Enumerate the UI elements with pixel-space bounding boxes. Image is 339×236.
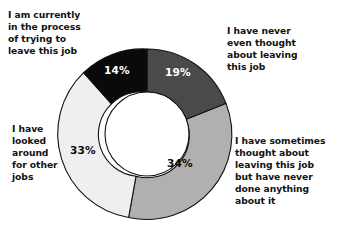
donut-chart-figure: I am currently in the process of trying …: [0, 0, 339, 236]
slice-label-looked-around: I have looked around for other jobs: [12, 123, 78, 183]
slice-value-leaving-process: 14%: [104, 64, 130, 76]
slice-value-never-thought: 19%: [165, 66, 191, 78]
slice-value-looked-around: 33%: [70, 144, 96, 156]
slice-label-never-thought: I have never even thought about leaving …: [227, 25, 335, 73]
slice-label-sometimes-thought: I have sometimes thought about leaving t…: [235, 135, 339, 208]
slice-value-sometimes-thought: 34%: [167, 157, 193, 169]
slice-label-leaving-process: I am currently in the process of trying …: [8, 9, 112, 57]
